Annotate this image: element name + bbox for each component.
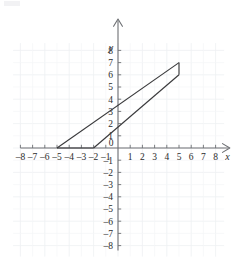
- x-tick-label: –7: [27, 152, 38, 162]
- axis-lines: [20, 19, 229, 250]
- x-tick-label: –5: [51, 152, 62, 162]
- y-tick-label: –4: [103, 192, 114, 202]
- x-axis-label: x: [224, 151, 230, 162]
- x-tick-label: 2: [140, 152, 145, 162]
- x-tick-label: 7: [201, 152, 206, 162]
- y-tick-label: –5: [103, 204, 114, 214]
- x-tick-label: –4: [63, 152, 74, 162]
- y-tick-label: –7: [103, 229, 114, 239]
- x-tick-label: 4: [164, 152, 169, 162]
- x-tick-label: –8: [15, 152, 26, 162]
- y-tick-label: –1: [103, 156, 114, 166]
- y-tick-label: –6: [103, 217, 114, 227]
- coordinate-plane-graph: –8–7–6–5–4–3–2–11234567887654321–1–2–3–4…: [0, 0, 246, 273]
- axis-name-labels: xy: [108, 42, 231, 162]
- y-axis-label: y: [108, 42, 114, 53]
- y-tick-label: 5: [108, 82, 113, 92]
- y-tick-label: –3: [103, 180, 114, 190]
- origin-label: 0: [109, 138, 114, 148]
- y-tick-label: –8: [103, 241, 114, 251]
- y-tick-label: 2: [108, 119, 113, 129]
- x-tick-label: 5: [177, 152, 182, 162]
- y-tick-label: 6: [108, 70, 113, 80]
- x-tick-label: –2: [88, 152, 99, 162]
- x-tick-label: 3: [152, 152, 157, 162]
- plot-area: –8–7–6–5–4–3–2–11234567887654321–1–2–3–4…: [0, 0, 246, 273]
- x-tick-label: 6: [189, 152, 194, 162]
- y-tick-label: –2: [103, 168, 114, 178]
- x-tick-label: 1: [128, 152, 133, 162]
- x-tick-label: 8: [213, 152, 218, 162]
- y-tick-label: 4: [108, 95, 113, 105]
- x-tick-label: –6: [39, 152, 50, 162]
- x-tick-label: –3: [76, 152, 87, 162]
- y-tick-label: 7: [108, 58, 113, 68]
